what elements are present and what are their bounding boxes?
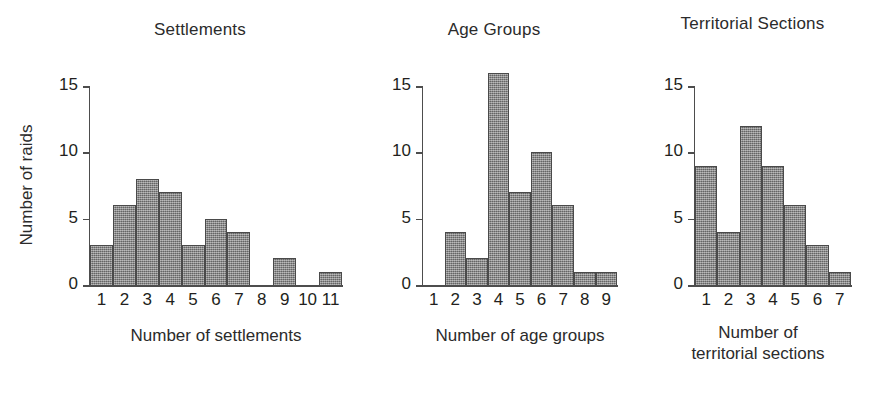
- bar-slot: [423, 67, 445, 285]
- bar-slot: [531, 67, 553, 285]
- x-tick-label: 4: [762, 290, 784, 310]
- x-tick-label: 3: [740, 290, 762, 310]
- x-tick-label: 6: [531, 290, 553, 310]
- y-tick-10: [688, 152, 694, 154]
- bar-slot: [250, 86, 273, 285]
- x-tick-label: 7: [552, 290, 574, 310]
- chart-panel-agegroups: Age Groups 15 10 5 0 123456789 Number of…: [360, 0, 628, 393]
- x-tick-row-settlements: 1234567891011: [90, 290, 342, 310]
- y-tick-label-0: 0: [375, 274, 411, 294]
- chart-title-settlements: Settlements: [0, 20, 360, 40]
- bar-slot: [740, 86, 762, 285]
- x-tick-label: 10: [296, 290, 319, 310]
- y-tick-15: [83, 86, 89, 88]
- x-tick-label: 4: [488, 290, 510, 310]
- y-tick-label-5: 5: [375, 208, 411, 228]
- x-tick-label: 7: [227, 290, 250, 310]
- x-tick-row-territorial: 1234567: [695, 290, 851, 310]
- x-axis-line: [89, 285, 343, 287]
- y-tick-label-5: 5: [42, 208, 78, 228]
- x-axis-line: [422, 285, 618, 287]
- bar: [695, 166, 717, 285]
- plot-area-agegroups: 15 10 5 0: [423, 67, 617, 285]
- x-tick-label: 6: [205, 290, 228, 310]
- chart-title-territorial: Territorial Sections: [628, 14, 877, 34]
- y-tick-label-15: 15: [375, 75, 411, 95]
- bar: [273, 258, 296, 285]
- y-tick-0: [416, 285, 422, 287]
- bar: [762, 166, 784, 285]
- bar-slot: [296, 86, 319, 285]
- x-axis-label-territorial: Number of territorial sections: [643, 322, 873, 365]
- bar-slot: [90, 86, 113, 285]
- bar: [319, 272, 342, 285]
- bar-slot: [159, 86, 182, 285]
- bar: [784, 205, 806, 285]
- bar: [445, 232, 467, 285]
- bar-slot: [509, 67, 531, 285]
- y-tick-label-0: 0: [647, 274, 683, 294]
- bar-slot: [113, 86, 136, 285]
- x-tick-label: 9: [273, 290, 296, 310]
- bar-slot: [784, 86, 806, 285]
- y-axis-label: Number of raids: [17, 95, 37, 275]
- y-tick-5: [416, 219, 422, 221]
- bar: [227, 232, 250, 285]
- x-tick-label: 1: [423, 290, 445, 310]
- y-tick-label-10: 10: [42, 141, 78, 161]
- plot-area-settlements: 15 10 5 0: [90, 86, 342, 285]
- bar: [466, 258, 488, 285]
- x-tick-label: 3: [136, 290, 159, 310]
- bar-slot: [273, 86, 296, 285]
- y-tick-10: [83, 152, 89, 154]
- x-tick-label: 11: [319, 290, 342, 310]
- bar-slot: [762, 86, 784, 285]
- chart-title-agegroups: Age Groups: [360, 20, 628, 40]
- bar-series-agegroups: [423, 67, 617, 285]
- x-tick-label: 5: [182, 290, 205, 310]
- x-tick-label: 5: [509, 290, 531, 310]
- x-tick-label: 6: [806, 290, 828, 310]
- x-tick-label: 2: [445, 290, 467, 310]
- bar-slot: [445, 67, 467, 285]
- bar: [90, 245, 113, 285]
- x-axis-label-line1: Number of territorial sections: [691, 323, 824, 363]
- bar: [552, 205, 574, 285]
- bar-slot: [466, 67, 488, 285]
- x-tick-label: 1: [695, 290, 717, 310]
- y-tick-0: [688, 285, 694, 287]
- y-tick-15: [416, 86, 422, 88]
- x-tick-label: 2: [113, 290, 136, 310]
- bar-series-settlements: [90, 86, 342, 285]
- bar: [531, 152, 553, 285]
- bar: [829, 272, 851, 285]
- y-tick-label-15: 15: [42, 75, 78, 95]
- bar-slot: [227, 86, 250, 285]
- chart-panel-territorial: Territorial Sections 15 10 5 0 1234567 N…: [628, 0, 877, 393]
- x-tick-label: 4: [159, 290, 182, 310]
- histogram-figure: Settlements Number of raids 15 10 5 0 12…: [0, 0, 877, 393]
- bar-slot: [695, 86, 717, 285]
- x-axis-label-settlements: Number of settlements: [60, 325, 372, 346]
- bar-slot: [574, 67, 596, 285]
- bar: [136, 179, 159, 285]
- bar-slot: [806, 86, 828, 285]
- y-tick-15: [688, 86, 694, 88]
- y-tick-label-10: 10: [647, 141, 683, 161]
- y-tick-label-0: 0: [42, 274, 78, 294]
- x-tick-label: 2: [717, 290, 739, 310]
- y-tick-10: [416, 152, 422, 154]
- x-tick-label: 1: [90, 290, 113, 310]
- x-tick-label: 9: [596, 290, 618, 310]
- y-tick-label-15: 15: [647, 75, 683, 95]
- bar-slot: [596, 67, 618, 285]
- bar-series-territorial: [695, 86, 851, 285]
- y-tick-5: [688, 219, 694, 221]
- bar: [488, 73, 510, 285]
- x-axis-line: [694, 285, 852, 287]
- bar: [806, 245, 828, 285]
- bar: [113, 205, 136, 285]
- x-tick-label: 5: [784, 290, 806, 310]
- bar: [509, 192, 531, 285]
- plot-area-territorial: 15 10 5 0: [695, 86, 851, 285]
